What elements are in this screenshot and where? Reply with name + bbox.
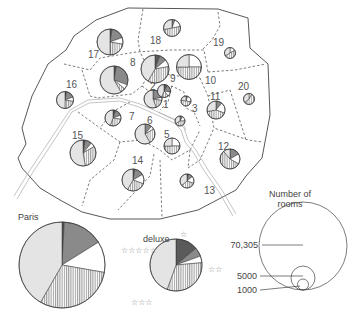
size-legend-1000: 1000 <box>237 285 257 295</box>
arrondissement-label-7: 7 <box>129 111 135 122</box>
arrondissement-label-8: 8 <box>130 57 136 68</box>
arrondissement-pie-4 <box>175 116 185 126</box>
summary-pie-label: Paris <box>18 212 39 222</box>
arrondissement-label-1: 1 <box>163 99 169 110</box>
arrondissement-pie-13 <box>180 174 194 188</box>
arrondissement-pie-20 <box>244 94 255 105</box>
arrondissement-label-3: 3 <box>192 103 198 114</box>
arrondissement-label-10: 10 <box>205 75 217 86</box>
arrondissement-pie-7 <box>105 110 121 126</box>
legend-three-star-label: ☆☆☆ <box>131 298 153 307</box>
arrondissement-pie-16 <box>57 92 74 109</box>
arrondissement-pie-2 <box>158 85 171 98</box>
paris-summary-pie <box>19 222 105 308</box>
arrondissement-label-17: 17 <box>88 49 100 60</box>
arrondissement-pie-19 <box>225 48 236 59</box>
size-legend-title: Number of <box>269 189 312 199</box>
arrondissement-label-9: 9 <box>170 73 176 84</box>
legend-deluxe-label: deluxe <box>143 234 170 244</box>
arrondissement-pie-10 <box>177 55 202 80</box>
legend-two-star-label: ☆☆ <box>208 265 222 274</box>
arrondissement-label-19: 19 <box>213 37 225 48</box>
arrondissement-label-20: 20 <box>238 81 250 92</box>
category-legend-pie <box>150 239 202 291</box>
arrondissement-pie-3 <box>181 96 191 106</box>
size-legend-70305: 70,305 <box>230 240 258 250</box>
arrondissement-pie-5 <box>164 138 180 154</box>
arrondissement-label-18: 18 <box>150 35 162 46</box>
arrondissement-pie-12 <box>220 149 240 169</box>
river-seine <box>14 98 236 216</box>
arrondissement-pie-15 <box>70 140 96 166</box>
arrondissement-pie-17 <box>97 29 123 55</box>
arrondissement-pie-18 <box>164 20 181 37</box>
arrondissement-pie-6 <box>135 124 155 144</box>
arrondissement-pie-14 <box>122 169 144 191</box>
arrondissement-label-13: 13 <box>204 185 216 196</box>
paris-hotel-map: 123567891011121314151617181920 Paris del… <box>0 0 355 309</box>
size-legend-5000: 5000 <box>237 271 257 281</box>
arrondissement-label-14: 14 <box>132 155 144 166</box>
arrondissement-label-11: 11 <box>210 91 221 102</box>
arrondissement-label-15: 15 <box>72 130 84 141</box>
arrondissement-pie-9 <box>141 55 169 83</box>
paris-boundary <box>18 8 270 219</box>
arrondissement-boundaries <box>64 9 266 218</box>
size-legend-circles <box>259 202 347 290</box>
arrondissement-pie-11 <box>207 101 225 119</box>
arrondissement-label-16: 16 <box>66 79 78 90</box>
arrondissement-pie-8 <box>100 66 128 94</box>
legend-one-star-label: ☆ <box>180 230 187 239</box>
legend-five-star-label: ☆☆☆☆☆ <box>121 246 157 255</box>
